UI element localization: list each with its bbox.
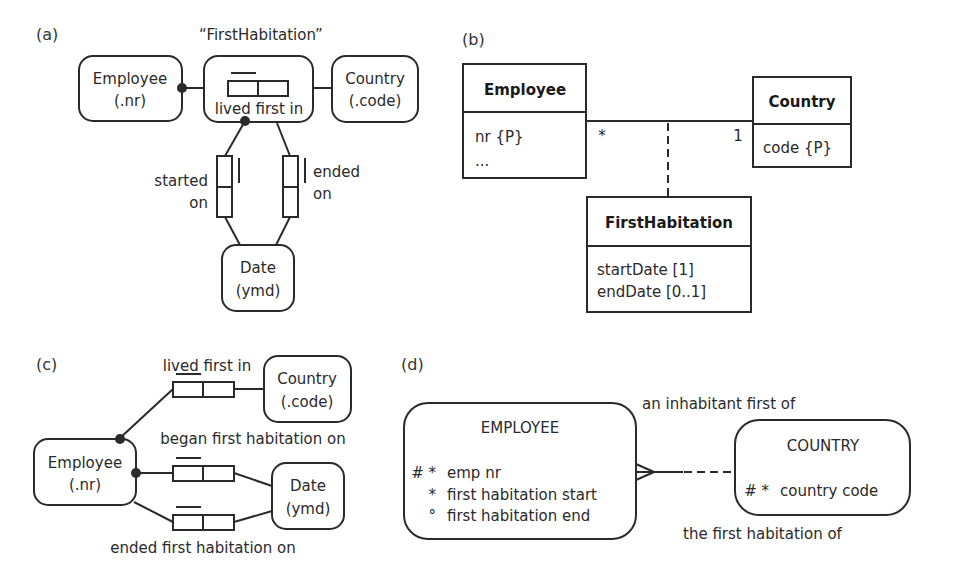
attr-marker: # * — [744, 482, 769, 500]
class-first-habitation-attr: startDate [1] — [597, 261, 694, 279]
er-entity-country — [735, 420, 910, 515]
diagram-canvas: (a) “FirstHabitation” Employee (.nr) liv… — [0, 0, 971, 577]
entity-country-ref: (.code) — [281, 393, 334, 411]
entity-employee-ref: (.nr) — [114, 92, 146, 110]
attr-marker: * — [429, 486, 437, 504]
entity-employee-name: Employee — [93, 70, 167, 88]
entity-country — [264, 356, 351, 422]
entity-country-ref: (.code) — [349, 92, 402, 110]
fact-lived-first-in: lived first in — [163, 357, 251, 375]
fact-began-first-habitation-on: began first habitation on — [160, 430, 345, 448]
mandatory-dot — [240, 116, 250, 126]
fact-ended-first-habitation-on: ended first habitation on — [110, 539, 296, 557]
started-connector-top — [225, 121, 245, 156]
attr-name: emp nr — [447, 464, 502, 482]
entity-employee — [79, 56, 182, 121]
panel-d-label: (d) — [401, 355, 424, 374]
class-first-habitation-name: FirstHabitation — [605, 214, 733, 232]
er-entity-country-name: COUNTRY — [787, 437, 860, 455]
attr-name: country code — [780, 482, 878, 500]
panel-c: (c) lived first in Country (.code) began… — [34, 355, 351, 557]
entity-date — [222, 245, 294, 311]
role-box — [173, 466, 203, 481]
entity-date-name: Date — [290, 477, 326, 495]
role-box — [203, 515, 234, 530]
objectified-fact-name: “FirstHabitation” — [199, 26, 323, 44]
er-entity-employee-name: EMPLOYEE — [481, 419, 559, 437]
began-connector-right — [234, 473, 272, 486]
class-employee-attr: ... — [475, 152, 489, 170]
role-box-1 — [228, 81, 258, 96]
attr-marker: # * — [411, 464, 436, 482]
class-country-attr: code {P} — [763, 139, 832, 157]
mandatory-dot — [177, 83, 187, 93]
ended-connector-bottom — [276, 217, 290, 245]
role-box — [203, 382, 234, 397]
panel-a: (a) “FirstHabitation” Employee (.nr) liv… — [36, 25, 418, 311]
fact-reading: lived first in — [215, 100, 303, 118]
mandatory-dot — [115, 434, 125, 444]
mandatory-dot — [131, 468, 141, 478]
multiplicity-country: 1 — [733, 127, 743, 145]
ended-connector-top — [277, 123, 290, 156]
relationship-label-bottom: the first habitation of — [683, 525, 843, 543]
started-connector-bottom — [225, 217, 240, 245]
started-role-box-2 — [217, 187, 232, 217]
ended-connector-left — [134, 502, 173, 522]
role-box — [173, 515, 203, 530]
ended-connector-right — [234, 511, 272, 522]
class-employee-name: Employee — [484, 81, 566, 99]
attr-name: first habitation end — [447, 507, 590, 525]
started-reading-line1: started — [154, 172, 208, 190]
entity-date-name: Date — [240, 259, 276, 277]
started-reading-line2: on — [189, 194, 208, 212]
entity-country-name: Country — [277, 370, 337, 388]
entity-employee-name: Employee — [48, 454, 122, 472]
class-country-name: Country — [768, 93, 835, 111]
entity-country-name: Country — [345, 70, 405, 88]
ended-role-box-2 — [283, 187, 298, 217]
panel-b-label: (b) — [462, 30, 485, 49]
ended-role-box-1 — [283, 156, 298, 187]
ended-reading-line2: on — [313, 185, 332, 203]
role-box — [173, 382, 203, 397]
entity-date-ref: (ymd) — [286, 500, 331, 518]
started-role-box-1 — [217, 156, 232, 187]
class-first-habitation-attr: endDate [0..1] — [597, 283, 706, 301]
panel-b: (b) * 1 Employee nr {P} ... Country code… — [462, 30, 851, 312]
panel-c-label: (c) — [36, 355, 57, 374]
relationship-label-top: an inhabitant first of — [642, 395, 796, 413]
role-box-2 — [258, 81, 288, 96]
panel-d: (d) an inhabitant first of the first hab… — [401, 355, 910, 543]
ended-reading-line1: ended — [313, 163, 360, 181]
attr-name: first habitation start — [447, 486, 597, 504]
entity-country — [332, 56, 418, 122]
role-box — [203, 466, 234, 481]
entity-employee — [34, 439, 136, 505]
entity-date-ref: (ymd) — [236, 282, 281, 300]
entity-date — [272, 463, 344, 529]
attr-marker: ° — [429, 507, 437, 525]
class-employee-attr: nr {P} — [475, 128, 524, 146]
multiplicity-employee: * — [598, 127, 606, 145]
panel-a-label: (a) — [36, 25, 58, 44]
entity-employee-ref: (.nr) — [69, 476, 101, 494]
